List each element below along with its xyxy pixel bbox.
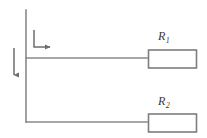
resistor-r2-label: R2 [158,95,169,107]
resistor-r1-body [149,50,197,68]
circuit-schematic-canvas [0,0,207,138]
resistor-r2-body [149,114,197,132]
resistor-r1-label: R1 [158,30,169,42]
resistor-r1-subscript: 1 [166,36,170,45]
resistor-r2-symbol: R [158,94,165,108]
resistor-r1-symbol: R [158,29,165,43]
current-arrow-right-icon [34,30,50,47]
circuit-diagram: R1 R2 [0,0,207,138]
resistor-r2-subscript: 2 [166,101,170,110]
